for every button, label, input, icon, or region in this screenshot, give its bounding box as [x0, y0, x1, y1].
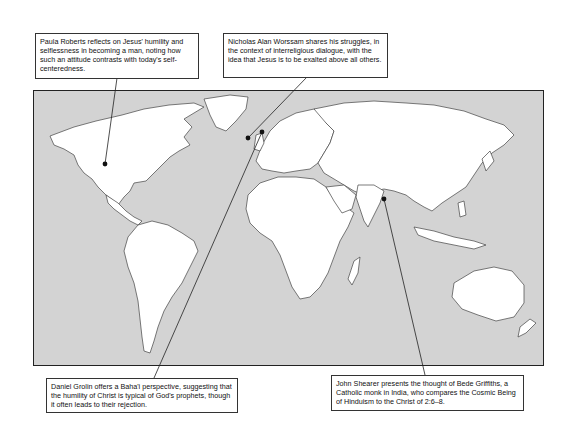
callout-text: Paula Roberts reflects on Jesus' humilit…: [40, 37, 183, 73]
callout-text: Nicholas Alan Worssam shares his struggl…: [228, 37, 381, 64]
callout-text: Daniel Grolin offers a Baha'i perspectiv…: [51, 382, 232, 409]
location-marker-usa: [103, 162, 108, 167]
callout-john-shearer: John Shearer presents the thought of Bed…: [331, 375, 524, 411]
leader-line-john-shearer: [384, 199, 425, 375]
callout-text: John Shearer presents the thought of Bed…: [336, 379, 516, 406]
location-marker-india: [382, 197, 387, 202]
leader-line-paula-roberts: [105, 78, 117, 164]
callout-paula-roberts: Paula Roberts reflects on Jesus' humilit…: [35, 33, 199, 79]
leader-line-nicholas-worssam: [248, 77, 307, 138]
leader-line-daniel-grolin: [154, 132, 262, 378]
callout-daniel-grolin: Daniel Grolin offers a Baha'i perspectiv…: [46, 378, 238, 413]
callout-nicholas-worssam: Nicholas Alan Worssam shares his struggl…: [223, 33, 388, 78]
location-marker-denmark: [260, 130, 265, 135]
location-marker-uk: [246, 136, 251, 141]
